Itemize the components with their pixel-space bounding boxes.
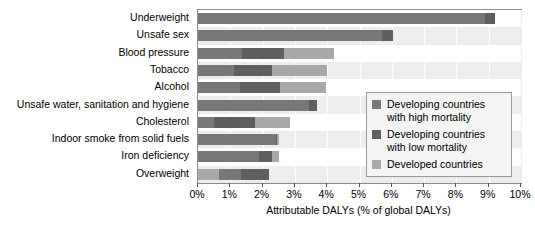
bar-chart: UnderweightUnsafe sexBlood pressureTobac… bbox=[0, 0, 535, 228]
bar-segment bbox=[255, 117, 291, 128]
bar-segment bbox=[485, 13, 495, 24]
bar-segment bbox=[198, 13, 485, 24]
bar-segment bbox=[198, 169, 219, 180]
stacked-bar bbox=[198, 30, 393, 41]
category-axis-labels: UnderweightUnsafe sexBlood pressureTobac… bbox=[0, 9, 193, 182]
bar-segment bbox=[259, 151, 272, 162]
legend-item[interactable]: Developed countries bbox=[372, 158, 505, 171]
category-label: Cholesterol bbox=[136, 113, 189, 130]
stacked-bar bbox=[198, 48, 334, 59]
bar-segment bbox=[309, 100, 317, 111]
category-label: Iron deficiency bbox=[121, 147, 189, 164]
bar-segment bbox=[198, 82, 240, 93]
legend-swatch-icon bbox=[372, 160, 381, 169]
stacked-bar bbox=[198, 117, 290, 128]
bar-segment bbox=[241, 169, 269, 180]
bar-segment bbox=[198, 30, 382, 41]
legend-label: Developing countries with high mortality bbox=[387, 98, 485, 123]
x-axis-tick-label: 1% bbox=[222, 188, 237, 200]
legend-label: Developing countries with low mortality bbox=[387, 128, 485, 153]
x-axis-tick-label: 0% bbox=[189, 188, 204, 200]
category-label: Unsafe sex bbox=[136, 26, 189, 43]
x-axis-tick bbox=[391, 183, 392, 187]
stacked-bar bbox=[198, 13, 495, 24]
x-axis-tick bbox=[423, 183, 424, 187]
x-axis-tick-label: 4% bbox=[319, 188, 334, 200]
x-axis-tick-label: 2% bbox=[254, 188, 269, 200]
category-label: Overweight bbox=[136, 165, 189, 182]
chart-legend: Developing countries with high mortality… bbox=[366, 92, 512, 177]
legend-swatch-icon bbox=[372, 130, 381, 139]
gridline bbox=[521, 10, 522, 183]
legend-swatch-icon bbox=[372, 100, 381, 109]
x-axis-tick bbox=[294, 183, 295, 187]
stacked-bar bbox=[198, 82, 326, 93]
bar-segment bbox=[382, 30, 393, 41]
bar-segment bbox=[272, 65, 327, 76]
bar-segment bbox=[198, 48, 242, 59]
stacked-bar bbox=[198, 134, 279, 145]
category-label: Underweight bbox=[130, 9, 189, 26]
x-axis-ticks: 0%1%2%3%4%5%6%7%8%9%10% bbox=[197, 183, 520, 188]
legend-item[interactable]: Developing countries with low mortality bbox=[372, 128, 505, 153]
bar-segment bbox=[234, 65, 273, 76]
bar-segment bbox=[198, 134, 276, 145]
x-axis-tick-label: 3% bbox=[286, 188, 301, 200]
bar-segment bbox=[242, 48, 284, 59]
stacked-bar bbox=[198, 100, 317, 111]
x-axis-tick bbox=[262, 183, 263, 187]
category-label: Tobacco bbox=[150, 61, 189, 78]
bar-segment bbox=[240, 82, 280, 93]
x-axis-tick-label: 9% bbox=[480, 188, 495, 200]
category-label: Unsafe water, sanitation and hygiene bbox=[17, 96, 189, 113]
x-axis-tick bbox=[520, 183, 521, 187]
bar-segment bbox=[219, 169, 241, 180]
x-axis-tick-label: 8% bbox=[448, 188, 463, 200]
x-axis-tick bbox=[326, 183, 327, 187]
x-axis-tick-label: 10% bbox=[509, 188, 530, 200]
bar-segment bbox=[277, 134, 279, 145]
x-axis-tick bbox=[488, 183, 489, 187]
x-axis-tick-label: 6% bbox=[383, 188, 398, 200]
category-label: Indoor smoke from solid fuels bbox=[52, 130, 189, 147]
bar-segment bbox=[280, 82, 325, 93]
legend-item[interactable]: Developing countries with high mortality bbox=[372, 98, 505, 123]
stacked-bar bbox=[198, 65, 327, 76]
bar-segment bbox=[284, 48, 334, 59]
x-axis-tick-label: 7% bbox=[416, 188, 431, 200]
x-axis-tick bbox=[359, 183, 360, 187]
bar-segment bbox=[198, 151, 259, 162]
x-axis-tick bbox=[455, 183, 456, 187]
legend-label: Developed countries bbox=[387, 158, 483, 171]
bar-segment bbox=[198, 117, 214, 128]
x-axis-title: Attributable DALYs (% of global DALYs) bbox=[197, 204, 520, 216]
bar-segment bbox=[198, 65, 234, 76]
stacked-bar bbox=[198, 169, 269, 180]
bar-segment bbox=[214, 117, 254, 128]
x-axis-tick bbox=[197, 183, 198, 187]
x-axis-tick bbox=[229, 183, 230, 187]
bar-segment bbox=[198, 100, 309, 111]
category-label: Alcohol bbox=[155, 78, 189, 95]
category-label: Blood pressure bbox=[118, 44, 189, 61]
stacked-bar bbox=[198, 151, 279, 162]
bar-segment bbox=[272, 151, 278, 162]
x-axis-tick-label: 5% bbox=[351, 188, 366, 200]
